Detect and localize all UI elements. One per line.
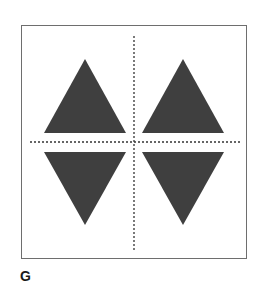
triangle-lower-right <box>142 152 224 225</box>
figure-label: G <box>20 268 31 284</box>
triangle-upper-left <box>44 59 126 133</box>
triangle-upper-right <box>142 59 224 133</box>
symmetry-diagram <box>0 0 265 287</box>
triangle-lower-left <box>44 152 126 225</box>
